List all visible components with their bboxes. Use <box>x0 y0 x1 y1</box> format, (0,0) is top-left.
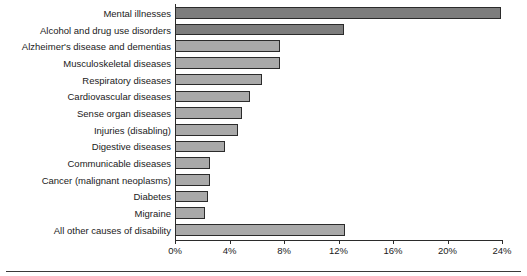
bar-track <box>175 189 527 206</box>
bar-track <box>175 88 527 105</box>
x-axis-tick-label: 0% <box>168 245 182 257</box>
bar-track <box>175 222 527 239</box>
category-label: Diabetes <box>0 191 175 202</box>
bar <box>175 74 262 86</box>
bar-track <box>175 155 527 172</box>
bar <box>175 224 345 236</box>
bar-row: Respiratory diseases <box>0 72 527 89</box>
x-axis-tick-label: 20% <box>438 245 457 257</box>
category-label: Cardiovascular diseases <box>0 91 175 102</box>
bar <box>175 107 242 119</box>
bar-row: Cancer (malignant neoplasms) <box>0 172 527 189</box>
x-axis-tick-label: 16% <box>383 245 402 257</box>
bar-row: All other causes of disability <box>0 222 527 239</box>
x-axis-tick-label: 24% <box>492 245 511 257</box>
bar-row: Musculoskeletal diseases <box>0 55 527 72</box>
bar-track <box>175 105 527 122</box>
bar <box>175 24 344 36</box>
x-axis-tick <box>230 240 231 244</box>
bar-track <box>175 172 527 189</box>
category-label: All other causes of disability <box>0 225 175 236</box>
bar <box>175 7 501 19</box>
bar-row: Digestive diseases <box>0 139 527 156</box>
category-label: Musculoskeletal diseases <box>0 58 175 69</box>
x-axis-tick <box>284 240 285 244</box>
bar-row: Sense organ diseases <box>0 105 527 122</box>
bar <box>175 174 210 186</box>
bar-row: Communicable diseases <box>0 155 527 172</box>
x-axis-tick <box>502 240 503 244</box>
category-label: Digestive diseases <box>0 141 175 152</box>
bar-track <box>175 139 527 156</box>
bar-track <box>175 5 527 22</box>
bar-row: Injuries (disabling) <box>0 122 527 139</box>
bar <box>175 207 205 219</box>
bar <box>175 191 208 203</box>
category-label: Injuries (disabling) <box>0 125 175 136</box>
bar <box>175 157 210 169</box>
category-label: Sense organ diseases <box>0 108 175 119</box>
bar-chart: Mental illnessesAlcohol and drug use dis… <box>0 0 527 276</box>
x-axis-tick-label: 12% <box>329 245 348 257</box>
x-axis-tick <box>393 240 394 244</box>
plot-area: Mental illnessesAlcohol and drug use dis… <box>0 0 527 246</box>
bar <box>175 91 250 103</box>
bar-row: Cardiovascular diseases <box>0 88 527 105</box>
bar-track <box>175 55 527 72</box>
x-axis-tick-label: 8% <box>277 245 291 257</box>
footer-rule <box>6 271 521 272</box>
category-label: Respiratory diseases <box>0 75 175 86</box>
category-label: Alzheimer's disease and dementias <box>0 41 175 52</box>
x-axis-tick <box>175 240 176 244</box>
bar-track <box>175 38 527 55</box>
category-label: Communicable diseases <box>0 158 175 169</box>
bar <box>175 124 238 136</box>
bar-rows: Mental illnessesAlcohol and drug use dis… <box>0 5 527 239</box>
bar-track <box>175 72 527 89</box>
bar-row: Alcohol and drug use disorders <box>0 22 527 39</box>
bar-row: Alzheimer's disease and dementias <box>0 38 527 55</box>
bar-row: Migraine <box>0 205 527 222</box>
bar-row: Mental illnesses <box>0 5 527 22</box>
bar-track <box>175 22 527 39</box>
bar-row: Diabetes <box>0 189 527 206</box>
bar-track <box>175 205 527 222</box>
bar <box>175 57 280 69</box>
x-axis-tick <box>339 240 340 244</box>
bar <box>175 40 280 52</box>
category-label: Cancer (malignant neoplasms) <box>0 175 175 186</box>
category-label: Mental illnesses <box>0 8 175 19</box>
x-axis-tick <box>448 240 449 244</box>
category-label: Alcohol and drug use disorders <box>0 25 175 36</box>
x-axis-tick-label: 4% <box>223 245 237 257</box>
category-label: Migraine <box>0 208 175 219</box>
bar-track <box>175 122 527 139</box>
bar <box>175 141 225 153</box>
